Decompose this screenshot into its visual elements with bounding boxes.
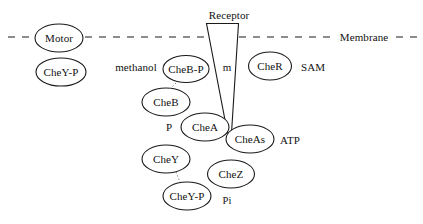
- node-chey[interactable]: [142, 145, 190, 173]
- annotation-sam: SAM: [301, 61, 325, 73]
- node-chez[interactable]: [208, 160, 255, 188]
- node-cheb[interactable]: [142, 88, 190, 116]
- annotation-methanol: methanol: [115, 61, 157, 73]
- node-ellipses: [35, 24, 292, 210]
- chemotaxis-diagram: Receptor Membrane Motor CheY-P CheB-P Ch…: [0, 0, 423, 224]
- annotation-p: P: [166, 121, 172, 133]
- node-chea[interactable]: [181, 113, 229, 141]
- annotation-pi: Pi: [223, 195, 232, 206]
- node-chebp[interactable]: [163, 56, 209, 83]
- node-cheas[interactable]: [226, 125, 274, 153]
- node-cheyp-motor[interactable]: [36, 58, 86, 86]
- node-cher[interactable]: [249, 52, 292, 80]
- node-cheyp[interactable]: [163, 182, 211, 210]
- annotation-m: m: [223, 61, 232, 73]
- node-motor[interactable]: [35, 24, 83, 52]
- receptor-label: Receptor: [209, 9, 250, 21]
- annotation-atp: ATP: [280, 134, 300, 146]
- connector-chey-to-cheyp: [176, 172, 180, 182]
- membrane-label: Membrane: [340, 31, 388, 43]
